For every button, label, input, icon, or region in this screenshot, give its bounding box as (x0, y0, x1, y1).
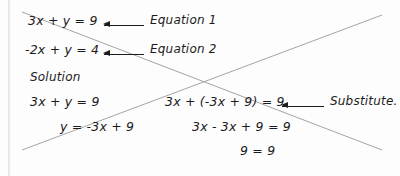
page-margin-rule (8, 0, 10, 176)
math-figure: 3x + y = 9 Equation 1 -2x + y = 4 Equati… (0, 0, 400, 176)
left-arrow-icon (282, 106, 324, 107)
substitute-callout-label: Substitute. (330, 94, 398, 108)
solution-left-step-2: y = -3x + 9 (60, 119, 134, 134)
solution-heading: Solution (30, 70, 81, 84)
solution-right-step-1: 3x + (-3x + 9) = 9 (165, 94, 285, 109)
equation-1-callout-arrow (104, 19, 144, 31)
equation-1-expression: 3x + y = 9 (28, 13, 98, 28)
equation-2-callout-arrow (104, 48, 144, 60)
solution-right-step-2: 3x - 3x + 9 = 9 (192, 119, 291, 134)
solution-right-step-3: 9 = 9 (240, 143, 275, 158)
left-arrow-icon (104, 54, 144, 55)
equation-2-expression: -2x + y = 4 (25, 42, 99, 57)
equation-2-callout-label: Equation 2 (150, 42, 217, 56)
solution-left-step-1: 3x + y = 9 (30, 94, 100, 109)
equation-1-callout-label: Equation 1 (150, 13, 217, 27)
substitute-callout-arrow (282, 100, 324, 112)
left-arrow-icon (104, 25, 144, 26)
